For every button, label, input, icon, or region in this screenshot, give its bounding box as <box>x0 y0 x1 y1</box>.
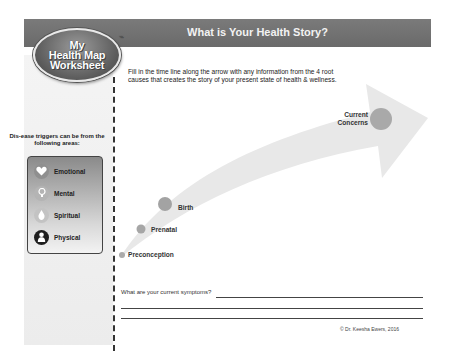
heart-icon <box>34 164 49 179</box>
trigger-item-spiritual: Spiritual <box>34 207 80 223</box>
triggers-box: Emotional Mental Spiritual Physical <box>27 156 103 254</box>
symptoms-question: What are your current symptoms? <box>121 289 211 295</box>
trigger-label-spiritual: Spiritual <box>54 212 80 219</box>
milestone-label-current-concerns: Current Concerns <box>336 111 368 127</box>
symptoms-input-line-2[interactable] <box>121 308 423 309</box>
trigger-label-emotional: Emotional <box>54 168 85 175</box>
copyright-text: © Dr. Keesha Ewers, 2016 <box>340 326 399 332</box>
triggers-label: Dis-ease triggers can be from the follow… <box>2 133 112 147</box>
trigger-label-physical: Physical <box>54 234 80 241</box>
lightbulb-icon <box>34 186 49 201</box>
milestone-label-preconception: Preconception <box>128 251 174 258</box>
symptoms-input-line-3[interactable] <box>121 318 423 319</box>
worksheet-page: What is Your Health Story? My Health Map… <box>0 0 451 354</box>
milestone-dot-prenatal <box>137 225 146 234</box>
trigger-item-emotional: Emotional <box>34 163 85 179</box>
trigger-item-mental: Mental <box>34 185 75 201</box>
trigger-label-mental: Mental <box>54 190 75 197</box>
milestone-dot-preconception <box>119 252 125 258</box>
milestone-dot-birth <box>158 197 172 211</box>
milestone-label-birth: Birth <box>178 204 193 211</box>
trigger-item-physical: Physical <box>34 229 80 245</box>
milestone-label-prenatal: Prenatal <box>151 226 177 233</box>
flame-icon <box>34 208 49 223</box>
person-icon <box>34 230 49 245</box>
milestone-dot-current-concerns <box>370 108 392 130</box>
symptoms-input-line-1[interactable] <box>216 297 423 298</box>
